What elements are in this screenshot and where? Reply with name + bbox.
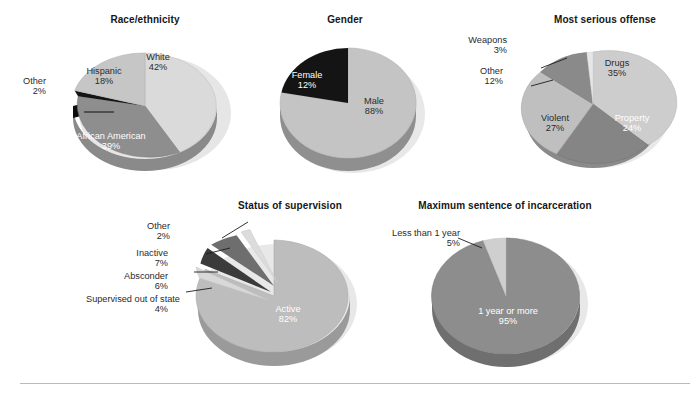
- slice-label-violent: Violent 27%: [529, 113, 581, 134]
- slice-label-less-than-1-year-value: 5%: [447, 238, 460, 248]
- slice-label-less-than-1-year: Less than 1 year 5%: [370, 228, 460, 249]
- slice-label-absconder: Absconder 6%: [96, 271, 168, 292]
- slice-label-inactive-value: 7%: [155, 258, 168, 268]
- slice-label-property-name: Property: [615, 113, 650, 123]
- slice-label-supervised-value: 4%: [155, 304, 168, 314]
- slice-label-male-name: Male: [364, 96, 384, 106]
- slice-label-female-value: 12%: [298, 80, 316, 90]
- slice-label-female: Female 12%: [280, 70, 334, 91]
- slice-label-inactive-name: Inactive: [136, 248, 168, 258]
- slice-label-drugs-value: 35%: [608, 68, 626, 78]
- chart-title-gender: Gender: [275, 14, 415, 25]
- bottom-rule: [20, 383, 690, 384]
- slice-label-other-status: Other 2%: [118, 221, 170, 242]
- slice-label-active-value: 82%: [279, 314, 297, 324]
- slice-label-white-name: White: [146, 52, 170, 62]
- slice-label-violent-name: Violent: [541, 113, 569, 123]
- slice-label-other-status-name: Other: [147, 221, 170, 231]
- chart-title-most-serious-offense: Most serious offense: [520, 14, 690, 25]
- chart-title-race-ethnicity: Race/ethnicity: [55, 14, 235, 25]
- slice-label-active: Active 82%: [262, 304, 314, 325]
- figure-canvas: Race/ethnicity White 42%: [0, 0, 698, 394]
- slice-label-active-name: Active: [275, 304, 300, 314]
- slice-label-supervised-name: Supervised out of state: [86, 294, 180, 304]
- slice-label-hispanic: Hispanic 18%: [74, 66, 134, 87]
- slice-label-white: White 42%: [132, 52, 184, 73]
- slice-label-property: Property 24%: [601, 113, 663, 134]
- pie-chart-most-serious-offense: [495, 30, 695, 180]
- slice-label-drugs: Drugs 35%: [593, 58, 641, 79]
- slice-label-african-american-name: African American: [76, 131, 145, 141]
- slice-label-property-value: 24%: [623, 123, 641, 133]
- slice-label-absconder-name: Absconder: [124, 271, 168, 281]
- slice-label-hispanic-value: 18%: [95, 76, 113, 86]
- slice-label-other-race: Other 2%: [2, 76, 46, 97]
- chart-title-maximum-sentence: Maximum sentence of incarceration: [390, 200, 620, 211]
- slice-label-african-american: African American 39%: [53, 131, 169, 152]
- slice-label-other-offense-name: Other: [480, 66, 503, 76]
- slice-label-violent-value: 27%: [546, 123, 564, 133]
- slice-label-other-race-value: 2%: [33, 86, 46, 96]
- slice-label-hispanic-name: Hispanic: [86, 66, 121, 76]
- slice-label-supervised-out-of-state: Supervised out of state 4%: [86, 294, 168, 315]
- slice-label-other-status-value: 2%: [157, 231, 170, 241]
- slice-label-female-name: Female: [292, 70, 323, 80]
- slice-label-male: Male 88%: [350, 96, 398, 117]
- slice-label-weapons-name: Weapons: [468, 35, 507, 45]
- slice-label-other-offense-value: 12%: [485, 76, 503, 86]
- slice-label-drugs-name: Drugs: [605, 58, 630, 68]
- slice-label-weapons: Weapons 3%: [445, 35, 507, 56]
- chart-title-status-of-supervision: Status of supervision: [200, 200, 380, 211]
- slice-label-1-year-or-more: 1 year or more 95%: [462, 306, 554, 327]
- slice-label-african-american-value: 39%: [102, 141, 120, 151]
- slice-label-inactive: Inactive 7%: [110, 248, 168, 269]
- slice-label-other-race-name: Other: [23, 76, 46, 86]
- slice-label-absconder-value: 6%: [155, 281, 168, 291]
- slice-label-white-value: 42%: [149, 62, 167, 72]
- slice-label-male-value: 88%: [365, 106, 383, 116]
- slice-label-weapons-value: 3%: [494, 45, 507, 55]
- slice-label-1-year-or-more-value: 95%: [499, 316, 517, 326]
- slice-label-1-year-or-more-name: 1 year or more: [478, 306, 538, 316]
- slice-label-other-offense: Other 12%: [455, 66, 503, 87]
- pie-slices-sentence: [432, 238, 580, 354]
- pie-svg-status: [160, 216, 380, 376]
- pie-chart-status-of-supervision: [160, 216, 380, 376]
- pie-svg-offense: [495, 30, 695, 180]
- slice-label-less-than-1-year-name: Less than 1 year: [392, 228, 460, 238]
